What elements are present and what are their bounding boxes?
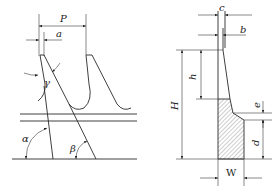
label-beta: β (69, 143, 76, 154)
label-H: H (169, 101, 180, 111)
label-c: c (219, 2, 225, 13)
technical-diagram: P a γ α β (0, 0, 279, 194)
right-view: c b h H e d W (169, 2, 272, 186)
body-section (218, 99, 244, 159)
label-P: P (59, 13, 67, 24)
beta-arc (76, 141, 87, 159)
label-d: d (250, 140, 261, 146)
label-h: h (187, 74, 198, 80)
left-view: P a γ α β (12, 13, 137, 159)
gamma-arrow-left (24, 73, 38, 75)
label-a: a (56, 28, 62, 39)
label-e: e (251, 102, 262, 108)
alpha-line (44, 86, 53, 159)
gamma-arrow-right (52, 63, 60, 72)
alpha-arc (26, 128, 47, 159)
label-W: W (226, 167, 237, 178)
tooth-2-profile (86, 55, 131, 109)
label-gamma: γ (44, 77, 50, 88)
tooth-2-back (84, 55, 90, 108)
label-b: b (240, 24, 246, 35)
label-alpha: α (22, 133, 29, 144)
tooth-taper (223, 50, 230, 99)
